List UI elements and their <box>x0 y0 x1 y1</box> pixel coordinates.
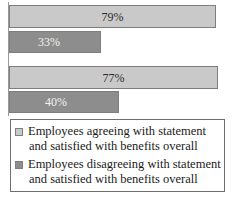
bar-agreeing-group-1: 79% <box>9 5 216 28</box>
legend-swatch-icon <box>15 128 23 136</box>
bar-value-label: 77% <box>103 72 125 84</box>
legend-item-disagreeing: Employees disagreeing with statement and… <box>15 157 221 187</box>
bar-chart: 79% 33% 77% 40% Employees agreeing with … <box>0 0 235 201</box>
legend-item-label: Employees disagreeing with statement and… <box>28 157 221 187</box>
plot-area: 79% 33% 77% 40% <box>0 0 235 118</box>
bar-disagreeing-group-1: 33% <box>9 31 101 53</box>
legend-item-agreeing: Employees agreeing with statement and sa… <box>15 124 221 154</box>
legend-swatch-icon <box>15 161 23 169</box>
bar-disagreeing-group-2: 40% <box>9 91 119 113</box>
legend-item-label: Employees agreeing with statement and sa… <box>28 124 206 154</box>
legend-label-line-1: Employees agreeing with statement <box>28 124 206 139</box>
legend-label-line-2: and satisfied with benefits overall <box>29 172 221 187</box>
bar-value-label: 79% <box>102 11 124 23</box>
chart-legend: Employees agreeing with statement and sa… <box>10 119 225 192</box>
bar-value-label: 40% <box>45 96 67 108</box>
bar-agreeing-group-2: 77% <box>9 66 218 89</box>
bar-value-label: 33% <box>38 36 60 48</box>
legend-label-line-1: Employees disagreeing with statement <box>28 157 221 172</box>
legend-label-line-2: and satisfied with benefits overall <box>29 139 206 154</box>
